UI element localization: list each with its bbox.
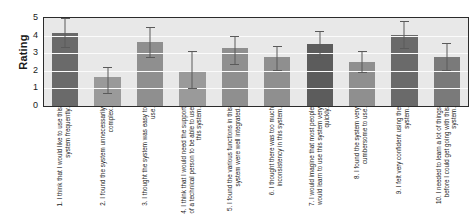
y-axis-tick-1: 1: [24, 83, 38, 92]
error-bar-cap-bottom-2: [103, 93, 112, 94]
x-axis-label-slot-9: 9. I felt very confident using the syste…: [382, 107, 424, 221]
y-axis-tick-5: 5: [24, 13, 38, 22]
error-bar-cap-top-4: [188, 51, 197, 52]
y-axis-tick-2: 2: [24, 66, 38, 75]
x-axis-label-6: 6. I thought there was too much inconsis…: [269, 107, 284, 217]
error-bar-5: [234, 36, 235, 65]
error-bar-cap-bottom-4: [188, 88, 197, 89]
x-axis-label-slot-2: 2. I found the system unnecessarily comp…: [85, 107, 127, 221]
bar-group-6: [256, 18, 298, 106]
error-bar-6: [277, 46, 278, 71]
error-bar-cap-bottom-9: [400, 48, 409, 49]
y-axis-tick-4: 4: [24, 31, 38, 40]
error-bar-4: [192, 51, 193, 89]
bar-group-3: [129, 18, 171, 106]
bar-group-9: [383, 18, 425, 106]
y-axis-tick-3: 3: [24, 48, 38, 57]
x-axis-label-5: 5. I found the various functions in this…: [226, 107, 241, 217]
error-bar-cap-bottom-6: [273, 70, 282, 71]
error-bar-9: [404, 21, 405, 49]
x-axis-label-slot-6: 6. I thought there was too much inconsis…: [255, 107, 297, 221]
x-axis-label-slot-7: 7. I would imagine that most people woul…: [297, 107, 339, 221]
error-bar-cap-top-2: [103, 67, 112, 68]
error-bar-3: [150, 27, 151, 59]
x-axis-label-3: 3. I thought the system was easy to use.: [141, 107, 156, 217]
error-bar-cap-top-5: [230, 36, 239, 37]
error-bar-cap-top-1: [61, 18, 70, 19]
bar-group-8: [341, 18, 383, 106]
bar-group-7: [298, 18, 340, 106]
x-axis-label-slot-5: 5. I found the various functions in this…: [213, 107, 255, 221]
y-axis-tick-labels: 543210: [24, 12, 38, 110]
bar-group-1: [44, 18, 86, 106]
x-axis-label-8: 8. I found the system very cumbersome to…: [353, 107, 368, 217]
error-bar-cap-top-7: [315, 31, 324, 32]
x-axis-label-7: 7. I would imagine that most people woul…: [307, 107, 330, 217]
x-axis-label-slot-8: 8. I found the system very cumbersome to…: [340, 107, 382, 221]
bars-layer: [44, 18, 468, 106]
bar-group-5: [214, 18, 256, 106]
error-bar-cap-top-9: [400, 21, 409, 22]
y-axis-tick-0: 0: [24, 101, 38, 110]
error-bar-cap-top-10: [442, 43, 451, 44]
error-bar-cap-bottom-3: [146, 57, 155, 58]
error-bar-cap-bottom-8: [358, 72, 367, 73]
bar-group-4: [171, 18, 213, 106]
x-axis-label-2: 2. I found the system unnecessarily comp…: [99, 107, 114, 217]
sus-rating-bar-chart: Rating 543210 1. I think that I would li…: [0, 0, 472, 221]
error-bar-cap-top-3: [146, 27, 155, 28]
error-bar-cap-bottom-5: [230, 64, 239, 65]
bar-group-2: [86, 18, 128, 106]
error-bar-cap-bottom-10: [442, 70, 451, 71]
x-axis-label-1: 1. I think that I would like to use this…: [57, 107, 72, 217]
x-axis-label-slot-4: 4. I think that I would need the support…: [170, 107, 212, 221]
error-bar-10: [446, 43, 447, 71]
error-bar-cap-top-8: [358, 51, 367, 52]
x-axis-label-4: 4. I think that I would need the support…: [180, 107, 203, 217]
error-bar-7: [319, 31, 320, 57]
bar-group-10: [426, 18, 468, 106]
error-bar-cap-top-6: [273, 46, 282, 47]
x-axis-label-slot-10: 10. I needed to learn a lot of things be…: [425, 107, 467, 221]
plot-area: [43, 17, 469, 107]
x-axis-label-9: 9. I felt very confident using the syste…: [396, 107, 411, 217]
x-axis-label-slot-1: 1. I think that I would like to use this…: [43, 107, 85, 221]
error-bar-cap-bottom-1: [61, 47, 70, 48]
error-bar-cap-bottom-7: [315, 57, 324, 58]
gridline-3: [44, 53, 468, 54]
x-axis-label-slot-3: 3. I thought the system was easy to use.: [128, 107, 170, 221]
error-bar-1: [65, 18, 66, 48]
x-axis-label-10: 10. I needed to learn a lot of things be…: [434, 107, 457, 217]
x-axis-labels: 1. I think that I would like to use this…: [43, 107, 467, 221]
error-bar-2: [107, 67, 108, 93]
error-bar-8: [362, 51, 363, 74]
